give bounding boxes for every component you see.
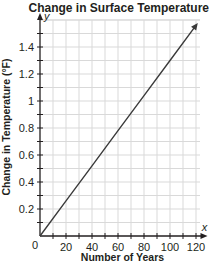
x-tick-label: 40 bbox=[86, 241, 98, 253]
y-tick-label: 1.2 bbox=[19, 68, 34, 80]
tick-labels: 204060801001200.20.40.60.811.21.40xy bbox=[19, 10, 208, 253]
y-tick-label: 0.6 bbox=[19, 149, 34, 161]
chart-plot-area: 204060801001200.20.40.60.811.21.40xy bbox=[0, 0, 211, 270]
y-tick-label: 1 bbox=[28, 95, 34, 107]
origin-label: 0 bbox=[32, 239, 38, 251]
y-tick-label: 1.4 bbox=[19, 41, 34, 53]
x-tick-label: 60 bbox=[112, 241, 124, 253]
x-tick-label: 80 bbox=[138, 241, 150, 253]
data-series-line bbox=[40, 23, 198, 236]
y-tick-label: 0.2 bbox=[19, 203, 34, 215]
x-axis-variable: x bbox=[201, 221, 208, 233]
x-tick-label: 20 bbox=[60, 241, 72, 253]
y-tick-label: 0.4 bbox=[19, 176, 34, 188]
y-tick-label: 0.8 bbox=[19, 122, 34, 134]
x-tick-label: 120 bbox=[187, 241, 205, 253]
x-tick-label: 100 bbox=[161, 241, 179, 253]
